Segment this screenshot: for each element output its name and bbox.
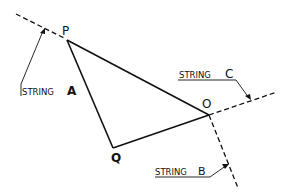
string-c-letter: C: [225, 67, 233, 81]
string-a-arrow-icon: [40, 28, 45, 34]
string-c-label: STRING C: [179, 67, 233, 81]
string-a-prefix: STRING: [22, 87, 54, 97]
string-b-letter: B: [198, 165, 206, 178]
string-c-arrow-icon: [245, 94, 251, 100]
string-b-label: STRING B: [155, 165, 206, 178]
string-b-line: [209, 115, 238, 188]
string-b-prefix: STRING: [155, 167, 187, 177]
point-label-p: P: [62, 24, 69, 38]
string-a-label: STRING A: [22, 84, 77, 98]
triangle-pqo: [67, 40, 209, 148]
point-label-q: Q: [111, 151, 121, 165]
string-c-line: [209, 92, 277, 115]
string-c-leader: [178, 80, 249, 98]
point-label-o: O: [202, 97, 211, 111]
string-c-prefix: STRING: [179, 70, 211, 80]
string-a-letter: A: [67, 84, 77, 98]
force-triangle-diagram: P O Q STRING A STRING C STRING B: [0, 0, 289, 194]
side-qo: [113, 115, 209, 148]
